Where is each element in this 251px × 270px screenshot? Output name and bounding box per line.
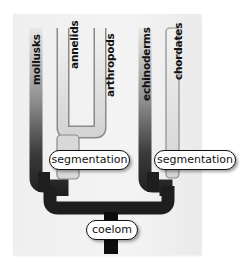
taxon-label-chordates: chordates	[172, 23, 184, 80]
taxon-label-mollusks: mollusks	[30, 34, 42, 85]
taxon-label-echinoderms: echinoderms	[140, 27, 152, 101]
taxon-label-arthropods: arthropods	[104, 33, 116, 97]
trait-segmentation-right: segmentation	[154, 150, 236, 170]
trait-segmentation-left: segmentation	[49, 150, 130, 170]
trait-coelom: coelom	[86, 220, 138, 240]
taxon-label-annelids: annelids	[68, 20, 80, 69]
